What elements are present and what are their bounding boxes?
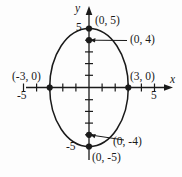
point-label-0--4: (0, -4) bbox=[113, 136, 142, 148]
y-axis-arrowhead bbox=[86, 6, 93, 15]
ellipse-figure: y x 5 -5 -5 5 (0, 5) (0, 4) (3, 0) (-3, … bbox=[0, 0, 182, 177]
y-tick-label--5: -5 bbox=[66, 141, 76, 153]
x-axis-label: x bbox=[170, 74, 175, 86]
y-tick-label-5: 5 bbox=[76, 22, 82, 34]
point-label-3-0: (3, 0) bbox=[130, 71, 155, 83]
point-label-0--5: (0, -5) bbox=[92, 152, 121, 164]
x-tick-label--5: -5 bbox=[17, 90, 27, 102]
point-marker-3-0 bbox=[125, 84, 131, 90]
point-label--3-0: (-3, 0) bbox=[12, 71, 41, 83]
point-marker-0-5 bbox=[86, 25, 92, 31]
point-marker-0--4 bbox=[86, 132, 92, 138]
y-axis-label: y bbox=[75, 3, 80, 15]
point-label-0-4: (0, 4) bbox=[130, 34, 155, 46]
x-tick-label-5: 5 bbox=[151, 90, 157, 102]
point-marker--3-0 bbox=[47, 84, 53, 90]
point-marker-0-4 bbox=[86, 37, 92, 43]
point-marker-0--5 bbox=[86, 143, 92, 149]
point-label-0-5: (0, 5) bbox=[95, 15, 120, 27]
